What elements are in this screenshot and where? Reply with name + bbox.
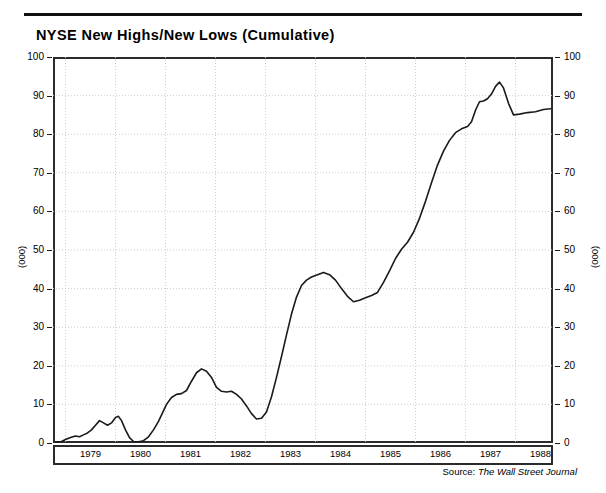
plot-area [53,57,553,443]
y-tick-mark-right [555,366,560,367]
header-rule [24,13,582,16]
y-tick-mark-left [47,443,52,444]
y-tick-label-left: 80 [18,129,44,139]
y-tick-mark-right [555,250,560,251]
grid-lines [53,57,553,443]
y-tick-label-right: 80 [564,129,590,139]
y-tick-mark-left [47,366,52,367]
y-tick-mark-right [555,289,560,290]
y-tick-label-right: 70 [564,168,590,178]
y-tick-mark-right [555,134,560,135]
chart-figure: NYSE New Highs/New Lows (Cumulative) 010… [0,0,606,493]
x-tick-label: 1981 [169,448,213,459]
y-tick-label-left: 90 [18,91,44,101]
x-tick-label: 1980 [119,448,163,459]
x-tick-label: 1979 [69,448,113,459]
plot-canvas [53,57,553,443]
y-tick-mark-right [555,57,560,58]
y-tick-label-right: 20 [564,361,590,371]
y-tick-label-left: 100 [18,52,44,62]
y-tick-mark-left [47,134,52,135]
x-tick-label: 1982 [219,448,263,459]
y-tick-label-right: 90 [564,91,590,101]
y-tick-label-left: 70 [18,168,44,178]
y-tick-mark-left [47,173,52,174]
y-tick-label-left: 40 [18,284,44,294]
y-tick-mark-left [47,327,52,328]
y-tick-mark-left [47,211,52,212]
y-tick-mark-left [47,96,52,97]
y-tick-mark-right [555,327,560,328]
y-tick-label-right: 30 [564,322,590,332]
page-title: NYSE New Highs/New Lows (Cumulative) [36,27,335,43]
y-tick-label-left: 30 [18,322,44,332]
x-tick-label: 1988 [519,448,563,459]
y-tick-mark-right [555,96,560,97]
x-tick-label: 1984 [319,448,363,459]
y-tick-label-right: 40 [564,284,590,294]
source-name: The Wall Street Journal [478,466,577,477]
y-axis-unit-left: (000) [16,246,27,268]
y-tick-label-left: 0 [18,438,44,448]
x-tick-label: 1985 [369,448,413,459]
y-tick-label-left: 20 [18,361,44,371]
y-axis-unit-right: (000) [589,246,600,268]
x-tick-label: 1986 [419,448,463,459]
y-tick-label-left: 10 [18,399,44,409]
y-tick-label-right: 50 [564,245,590,255]
y-tick-mark-left [47,404,52,405]
y-tick-mark-left [47,57,52,58]
y-tick-mark-right [555,443,560,444]
y-tick-label-right: 60 [564,206,590,216]
y-tick-label-left: 60 [18,206,44,216]
source-note: Source: The Wall Street Journal [443,466,577,477]
y-tick-mark-left [47,250,52,251]
x-tick-label: 1987 [469,448,513,459]
source-label: Source: [443,466,476,477]
y-tick-mark-right [555,404,560,405]
y-tick-label-right: 0 [564,438,590,448]
data-line [56,82,551,442]
y-tick-mark-left [47,289,52,290]
y-tick-label-right: 10 [564,399,590,409]
y-tick-label-right: 100 [564,52,590,62]
y-tick-mark-right [555,211,560,212]
x-tick-label: 1983 [269,448,313,459]
y-tick-mark-right [555,173,560,174]
